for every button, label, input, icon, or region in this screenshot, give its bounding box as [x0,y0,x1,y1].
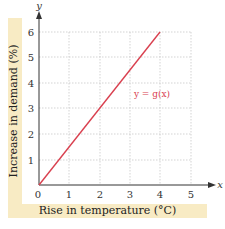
x-tick-4: 4 [157,189,163,200]
y-tick-6: 6 [28,27,34,38]
series-line-g [39,32,160,185]
y-axis-symbol: y [35,0,42,11]
y-tick-4: 4 [28,78,34,89]
x-axis-symbol: x [217,179,223,190]
x-tick-3: 3 [127,189,133,200]
y-tick-5: 5 [28,52,34,63]
x-tick-2: 2 [97,189,103,200]
x-axis-arrow-icon [208,182,216,188]
grid [39,32,191,185]
y-axis-label: Increase in demand (%) [7,11,21,211]
y-axis-arrow-icon [36,11,42,19]
x-axis-label: Rise in temperature (°C) [8,204,207,218]
y-tick-3: 3 [28,103,34,114]
series-label: y = g(x) [133,89,170,99]
x-tick-5: 5 [188,189,194,200]
x-tick-1: 1 [66,189,72,200]
x-tick-0: 0 [35,189,41,200]
chart-plot: 0 1 2 3 4 5 1 2 3 4 5 6 y x y = g(x) [0,0,225,229]
y-tick-2: 2 [28,129,34,140]
y-tick-1: 1 [28,155,34,166]
